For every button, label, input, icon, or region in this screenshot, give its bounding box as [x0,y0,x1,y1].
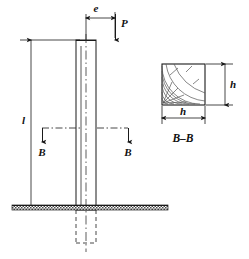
ground [12,205,168,210]
section-marker-right: B [97,128,132,158]
section-label-left: B [37,146,45,158]
length-dimension: l [20,40,80,207]
section-marker-left: B [37,128,80,158]
column [76,34,96,252]
section-width-label: h [180,105,186,117]
load-label: P [121,17,128,29]
section-label-right: B [123,146,131,158]
cross-section: h h B–B [162,64,236,144]
eccentricity-dimension: e [86,2,115,40]
length-label: l [22,114,26,126]
section-width-dimension: h [162,105,205,124]
figure-canvas: e P l B B [0,0,249,259]
section-caption: B–B [171,132,193,144]
engineering-figure: e P l B B [0,0,249,259]
section-height-dimension: h [206,64,236,105]
eccentricity-label: e [94,2,99,14]
section-height-label: h [230,78,236,90]
load-arrow-group: P [115,14,128,40]
ground-hatch-band [12,205,168,210]
